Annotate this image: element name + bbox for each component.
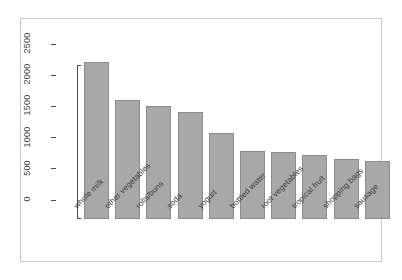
plot-frame: 05001000150020002500 whole milkother veg… (20, 18, 382, 262)
y-tick-1500 (51, 106, 56, 107)
y-tick-0 (51, 200, 56, 201)
chart-figure: 05001000150020002500 whole milkother veg… (0, 0, 402, 280)
y-tick-2000 (51, 75, 56, 76)
y-tick-500 (51, 168, 56, 169)
y-tick-1000 (51, 137, 56, 138)
y-tick-2500 (51, 44, 56, 45)
y-tick-label-2500: 2500 (22, 20, 32, 66)
